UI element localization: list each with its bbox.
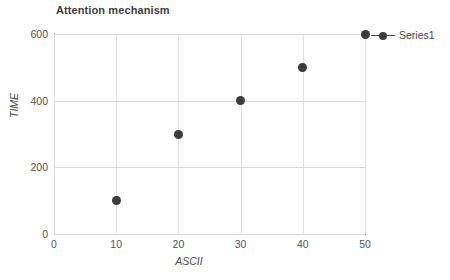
plot-area	[54, 34, 365, 234]
x-axis-label: ASCII	[0, 255, 450, 267]
y-tick-label: 200	[30, 161, 48, 173]
x-axis-tick-labels: 01020304050	[54, 238, 365, 254]
x-tick-label: 10	[110, 238, 122, 250]
x-tick-label: 30	[235, 238, 247, 250]
y-axis-label: TIME	[8, 93, 20, 118]
gridline-vertical	[365, 34, 366, 234]
data-point	[174, 130, 183, 139]
gridline-vertical	[241, 34, 242, 234]
x-tick-label: 50	[359, 238, 371, 250]
gridline-horizontal	[54, 234, 365, 235]
y-axis-tick-labels: 0200400600	[0, 34, 48, 234]
data-point	[236, 96, 245, 105]
x-tick-label: 20	[173, 238, 185, 250]
x-tick-label: 40	[297, 238, 309, 250]
data-point	[361, 30, 370, 39]
y-axis-label-text: TIME	[8, 93, 20, 118]
gridline-horizontal	[54, 34, 365, 35]
gridline-vertical	[54, 34, 55, 234]
chart-legend: Series1	[371, 29, 435, 41]
gridline-horizontal	[54, 101, 365, 102]
y-tick-label: 0	[42, 228, 48, 240]
x-tick-label: 0	[51, 238, 57, 250]
legend-entry-label: Series1	[399, 29, 435, 41]
chart-title: Attention mechanism	[56, 4, 170, 16]
gridline-horizontal	[54, 167, 365, 168]
data-point	[112, 196, 121, 205]
y-tick-label: 600	[30, 28, 48, 40]
data-point	[298, 63, 307, 72]
x-axis-label-text: ASCII	[175, 255, 202, 267]
chart-screenshot: Attention mechanism 0200400600 010203040…	[0, 0, 450, 280]
y-tick-label: 400	[30, 95, 48, 107]
legend-marker-icon	[371, 31, 395, 40]
